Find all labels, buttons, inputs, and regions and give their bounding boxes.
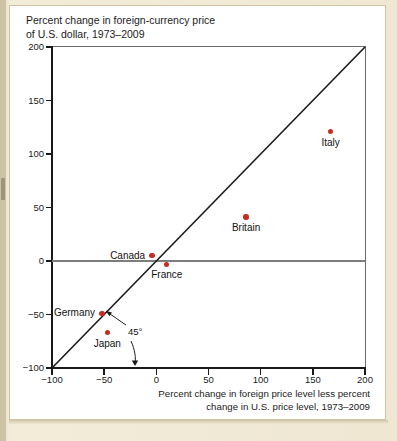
x-axis-title: Percent change in foreign price level le…	[130, 388, 370, 413]
y-axis-tick-label: 150	[0, 95, 44, 106]
data-point	[99, 311, 104, 316]
data-point-label: France	[151, 269, 182, 280]
data-point	[243, 214, 248, 219]
x-axis-tick-label: −50	[84, 374, 124, 385]
y-axis-tick	[46, 153, 52, 155]
annotation-arrowhead-to-line	[106, 311, 112, 316]
y-axis-tick-label: 50	[0, 202, 44, 213]
annotation-arrowhead-to-axis	[132, 361, 138, 366]
y-axis-tick	[46, 260, 52, 262]
y-axis-tick-label: 200	[0, 41, 44, 52]
x-axis-tick-label: 150	[293, 374, 333, 385]
y-axis-tick-label: −100	[0, 362, 44, 373]
annotation-arrow-to-axis	[131, 341, 135, 364]
y-axis-tick	[46, 46, 52, 48]
x-axis-tick-label: 0	[136, 374, 176, 385]
data-point-label: Canada	[110, 250, 145, 261]
forty-five-degree-line	[52, 47, 365, 368]
data-point-label: Britain	[232, 222, 260, 233]
page-background: Percent change in foreign-currency price…	[0, 0, 397, 441]
y-axis-tick-label: 100	[0, 148, 44, 159]
x-axis-tick-label: −100	[32, 374, 72, 385]
data-point-label: Germany	[54, 307, 95, 318]
y-axis-tick	[46, 314, 52, 316]
forty-five-degree-label: 45°	[128, 326, 142, 337]
y-axis-tick	[46, 100, 52, 102]
data-point-label: Japan	[94, 338, 121, 349]
y-axis-tick	[46, 207, 52, 209]
y-axis-tick-label: 0	[0, 255, 44, 266]
x-axis-tick-label: 50	[189, 374, 229, 385]
x-axis-tick-label: 200	[345, 374, 385, 385]
data-point-label: Italy	[321, 137, 339, 148]
x-axis-tick-label: 100	[241, 374, 281, 385]
y-axis-tick-label: −50	[0, 309, 44, 320]
